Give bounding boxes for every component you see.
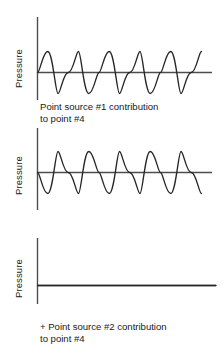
caption-source-2: + Point source #2 contribution to point … [40,321,224,345]
waveform-svg-source-1 [30,0,224,100]
y-axis-label-pressure: Pressure [13,284,24,298]
y-axis-label-pressure: Pressure [13,181,24,195]
plot-area-source-1 [30,0,224,100]
plot-area-source-2 [30,110,224,210]
panel-resultant: Pressure = Resultant at point #4 = sum o… [0,226,224,304]
wave-interference-figure: Pressure Point source #1 contribution to… [0,0,224,354]
panel-source-2: Pressure + Point source #2 contribution … [0,110,224,210]
panel-source-1: Pressure Point source #1 contribution to… [0,0,224,100]
y-axis-label-pressure: Pressure [13,74,24,88]
waveform-svg-source-2 [30,110,224,210]
waveform-svg-resultant [30,226,224,304]
plot-area-resultant [30,226,224,304]
